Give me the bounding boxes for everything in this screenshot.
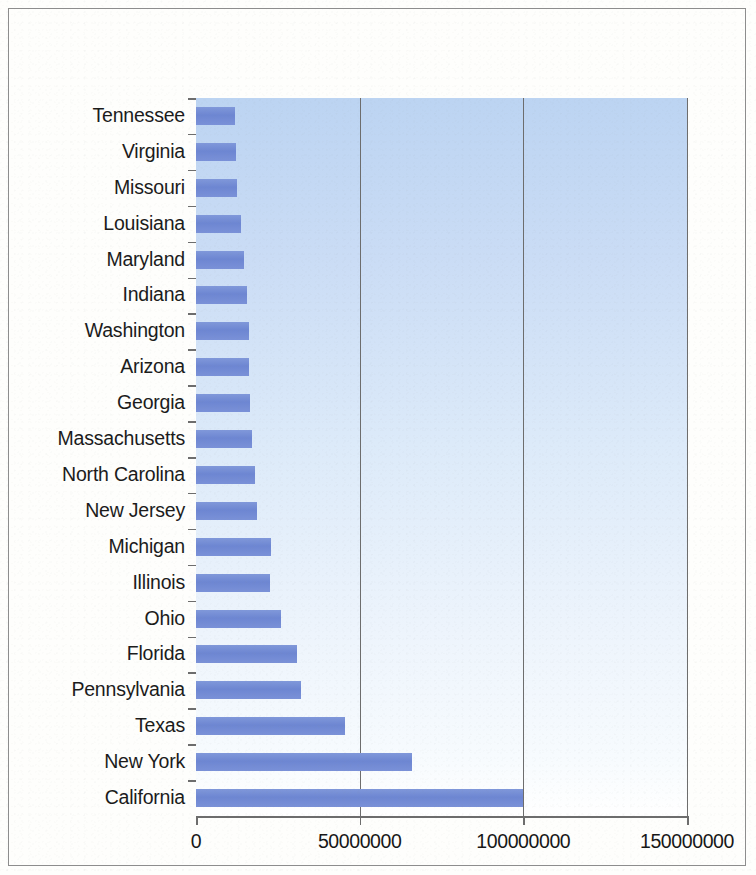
- bar: [196, 681, 301, 699]
- bar: [196, 179, 237, 197]
- x-axis-label: 50000000: [318, 830, 402, 853]
- y-axis-label: Florida: [5, 642, 185, 665]
- x-axis-label: 0: [191, 830, 201, 853]
- y-axis-label: Virginia: [5, 140, 185, 163]
- bar: [196, 358, 249, 376]
- y-tick: [188, 780, 196, 782]
- y-tick: [188, 134, 196, 136]
- y-tick: [188, 708, 196, 710]
- gridline-150000000: [687, 98, 688, 816]
- y-tick: [188, 242, 196, 244]
- gridline-100000000: [523, 98, 524, 816]
- plot-area: [196, 98, 687, 816]
- bar: [196, 789, 523, 807]
- bar: [196, 466, 255, 484]
- y-tick: [188, 98, 196, 100]
- y-axis-labels: TennesseeVirginiaMissouriLouisianaMaryla…: [0, 0, 185, 875]
- bar: [196, 502, 257, 520]
- y-tick: [188, 421, 196, 423]
- y-axis-label: North Carolina: [5, 463, 185, 486]
- x-axis-label: 100000000: [476, 830, 570, 853]
- y-axis-label: Louisiana: [5, 212, 185, 235]
- x-axis-label: 150000000: [640, 830, 734, 853]
- bar: [196, 717, 345, 735]
- bar: [196, 215, 241, 233]
- y-axis-label: Pennsylvania: [5, 678, 185, 701]
- bar: [196, 251, 244, 269]
- scanned-page: or the contrary a substantial part of be…: [0, 0, 756, 875]
- y-tick: [188, 349, 196, 351]
- y-axis-label: Arizona: [5, 355, 185, 378]
- bar-chart: TennesseeVirginiaMissouriLouisianaMaryla…: [0, 0, 756, 875]
- bar: [196, 430, 252, 448]
- gridline-50000000: [360, 98, 361, 816]
- y-axis-label: Ohio: [5, 607, 185, 630]
- y-tick: [188, 278, 196, 280]
- y-tick: [188, 313, 196, 315]
- y-tick: [188, 529, 196, 531]
- x-axis-line: [196, 816, 687, 818]
- y-axis-label: Texas: [5, 714, 185, 737]
- y-tick: [188, 206, 196, 208]
- y-axis-label: New York: [5, 750, 185, 773]
- bar: [196, 645, 297, 663]
- bar: [196, 394, 250, 412]
- y-tick: [188, 637, 196, 639]
- x-tick-0: [196, 816, 198, 825]
- y-tick: [188, 457, 196, 459]
- y-tick: [188, 601, 196, 603]
- y-tick: [188, 493, 196, 495]
- bar: [196, 322, 249, 340]
- bar: [196, 538, 271, 556]
- y-tick: [188, 170, 196, 172]
- x-tick-100000000: [523, 816, 525, 825]
- bar: [196, 610, 281, 628]
- y-axis-label: Missouri: [5, 176, 185, 199]
- y-tick: [188, 744, 196, 746]
- x-tick-50000000: [360, 816, 362, 825]
- bar: [196, 107, 235, 125]
- y-axis-label: Indiana: [5, 283, 185, 306]
- y-axis-label: Maryland: [5, 248, 185, 271]
- y-tick: [188, 385, 196, 387]
- y-tick: [188, 565, 196, 567]
- y-axis-label: Michigan: [5, 535, 185, 558]
- bar: [196, 143, 236, 161]
- bar: [196, 286, 247, 304]
- y-axis-label: Massachusetts: [5, 427, 185, 450]
- y-axis-label: California: [5, 786, 185, 809]
- y-axis-label: New Jersey: [5, 499, 185, 522]
- bar: [196, 574, 270, 592]
- y-axis-label: Georgia: [5, 391, 185, 414]
- x-tick-150000000: [687, 816, 689, 825]
- bar: [196, 753, 412, 771]
- y-axis-label: Illinois: [5, 571, 185, 594]
- y-tick: [188, 672, 196, 674]
- y-axis-label: Washington: [5, 319, 185, 342]
- y-axis-label: Tennessee: [5, 104, 185, 127]
